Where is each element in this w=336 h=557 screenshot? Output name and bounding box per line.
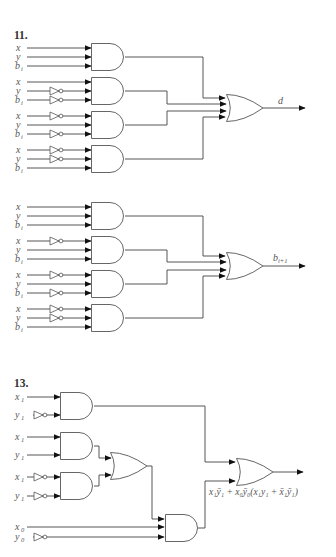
svg-text:1: 1: [21, 495, 24, 502]
inverter-icon: [50, 289, 63, 297]
svg-text:i: i: [21, 292, 23, 299]
inverter-icon: [50, 271, 63, 279]
problem-13-number: 13.: [14, 377, 29, 389]
and-gate-1: x y bi: [15, 201, 124, 231]
svg-text:y: y: [14, 490, 20, 501]
svg-text:i: i: [21, 65, 23, 72]
svg-text:x: x: [14, 471, 20, 482]
svg-text:i: i: [21, 167, 23, 174]
and-gate-1: x y bi: [15, 42, 124, 72]
svg-text:0: 0: [21, 536, 25, 543]
svg-text:b: b: [15, 128, 20, 139]
and-gate-2: x y bi: [15, 76, 124, 106]
svg-text:1: 1: [21, 414, 24, 421]
and-gate-d: [166, 515, 198, 542]
svg-text:x: x: [14, 391, 20, 402]
svg-text:i: i: [21, 99, 23, 106]
svg-text:b: b: [15, 321, 20, 332]
svg-text:x: x: [14, 431, 20, 442]
or-gate: [227, 253, 264, 280]
svg-text:i: i: [21, 258, 23, 265]
inverter-icon: [50, 146, 63, 154]
inverter-icon: [50, 130, 63, 138]
svg-text:b: b: [15, 94, 20, 105]
or-gate: [227, 95, 264, 122]
svg-text:b: b: [15, 60, 20, 71]
problem-11-number: 11.: [14, 29, 28, 41]
inverter-icon: [50, 87, 63, 95]
svg-text:b: b: [15, 219, 20, 230]
svg-text:1: 1: [21, 476, 24, 483]
svg-text:1: 1: [21, 436, 24, 443]
inverter-icon: [50, 314, 63, 322]
or-gate-final: [237, 459, 274, 486]
svg-text:1: 1: [21, 396, 24, 403]
svg-text:y: y: [14, 531, 20, 542]
svg-text:0: 0: [21, 526, 25, 533]
inverter-icon: [34, 533, 47, 541]
or-gate: [111, 453, 148, 480]
inverter-icon: [34, 492, 47, 500]
output-expression: x₁ȳ₁ + x₀ȳ₀(x₁y₁ + x̄₁ȳ₁): [209, 487, 298, 497]
svg-text:i: i: [21, 133, 23, 140]
svg-text:i: i: [21, 224, 23, 231]
circuit-13: x1 y1 x1 y1 x1 y1 x0 y0: [14, 391, 303, 543]
output-label-borrow: bi+1: [273, 252, 287, 264]
inverter-icon: [50, 237, 63, 245]
and-gate-3: x y bi: [15, 269, 124, 299]
and-gate-c: x1 y1: [14, 471, 93, 502]
inverter-icon: [34, 473, 47, 481]
svg-text:y: y: [14, 449, 20, 460]
and-gate-3: x y bi: [15, 110, 124, 140]
and-gate-b: x1 y1: [14, 431, 93, 461]
svg-text:b: b: [15, 287, 20, 298]
svg-text:y: y: [14, 409, 20, 420]
svg-text:b: b: [15, 162, 20, 173]
and-gate-2: x y bi: [15, 235, 124, 265]
svg-text:i: i: [21, 326, 23, 333]
inverter-icon: [34, 411, 47, 419]
inverter-icon: [50, 305, 63, 313]
logic-circuit-diagram: 11. x y bi x y bi: [0, 0, 336, 557]
inverter-icon: [50, 155, 63, 163]
inverter-icon: [50, 96, 63, 104]
svg-text:b: b: [15, 253, 20, 264]
and-gate-4: x y bi: [15, 144, 124, 174]
and-gate-4: x y bi: [15, 303, 124, 333]
circuit-11-borrow: x y bi x y bi x y bi: [15, 201, 305, 333]
circuit-11-d: x y bi x y bi x y bi: [15, 42, 305, 174]
inverter-icon: [50, 112, 63, 120]
output-label-d: d: [278, 95, 284, 106]
and-gate-a: x1 y1: [14, 391, 93, 421]
svg-text:1: 1: [21, 454, 24, 461]
